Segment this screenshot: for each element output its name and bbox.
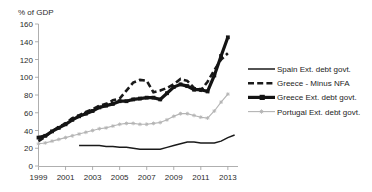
data-point-greece_ext [111,102,115,106]
data-point-greece_ext [192,88,196,92]
data-point-greece_ext [37,136,41,140]
data-point-greece_ext [118,99,122,103]
x-tick-label: 1999 [30,173,48,182]
y-tick-label: 0 [29,162,34,171]
data-point-portugal [219,100,223,104]
data-point-portugal [70,134,74,138]
data-point-greece_ext [179,82,183,86]
legend-label-spain: Spain Ext. debt govt. [277,65,351,74]
data-point-greece_ext [91,109,95,113]
data-point-greece_ext [226,35,230,39]
data-point-greece_ext [165,91,169,95]
chart-legend: Spain Ext. debt govt.Greece - Minus NFAG… [248,65,360,117]
series-line-spain [79,135,235,149]
legend-marker-greece-ext [260,95,265,100]
data-point-greece_ext [172,85,176,89]
data-point-greece_ext [212,74,216,78]
data-point-greece_ext [57,126,61,130]
legend-label-greece_nfa: Greece - Minus NFA [277,79,350,88]
data-point-greece_ext [131,98,135,102]
x-axis-tick-group: 19992001200320052007200920112013 [30,167,238,183]
y-tick-label: 100 [20,73,34,82]
y-tick-label: 40 [24,127,33,136]
data-point-portugal [158,121,162,125]
data-point-portugal [84,130,88,134]
data-point-greece_ext [199,88,203,92]
data-point-greece_ext [158,98,162,102]
legend-label-greece_ext: Greece Ext. debt govt. [277,93,357,102]
data-point-greece_ext [104,104,108,108]
data-point-greece_ext [219,54,223,58]
data-point-portugal [152,122,156,126]
data-point-greece_ext [43,134,47,138]
x-tick-label: 2003 [84,173,102,182]
data-point-portugal [172,114,176,118]
y-axis-tick-group: 020406080100120140160 [20,20,39,171]
data-point-portugal [212,109,216,113]
data-point-portugal [145,122,149,126]
data-point-greece_ext [50,129,54,133]
line-chart: % of GDP 020406080100120140160 199920012… [0,0,372,192]
data-point-portugal [138,122,142,126]
data-point-portugal [77,132,81,136]
data-point-greece_ext [84,112,88,116]
data-point-portugal [131,122,135,126]
series-group [37,35,235,149]
data-point-portugal [91,129,95,133]
legend-label-portugal: Portugal Ext. debt govt. [277,108,360,117]
data-point-portugal [111,124,115,128]
data-point-portugal [104,126,108,130]
data-point-greece_ext [138,97,142,101]
data-point-greece_ext [152,96,156,100]
series-line-greece_nfa [39,53,228,141]
data-point-greece_ext [64,122,68,126]
data-point-greece_ext [185,84,189,88]
data-point-portugal [226,92,230,96]
y-tick-label: 20 [24,144,33,153]
y-tick-label: 80 [24,91,33,100]
y-tick-label: 160 [20,20,34,29]
x-tick-label: 2011 [192,173,210,182]
data-point-greece_ext [97,106,101,110]
data-point-portugal [118,122,122,126]
x-tick-label: 2001 [57,173,75,182]
data-point-portugal [192,114,196,118]
data-point-portugal [37,142,41,146]
y-tick-label: 140 [20,38,34,47]
data-point-portugal [125,122,129,126]
data-point-portugal [43,141,47,145]
y-axis-title: % of GDP [18,8,54,17]
data-point-greece_ext [125,99,129,103]
x-tick-label: 2009 [165,173,183,182]
data-point-portugal [199,115,203,119]
y-tick-label: 60 [24,109,33,118]
data-point-greece_ext [77,114,81,118]
x-tick-label: 2007 [138,173,156,182]
data-point-greece_ext [206,90,210,94]
data-point-portugal [179,112,183,116]
chart-container: % of GDP 020406080100120140160 199920012… [0,0,372,192]
data-point-greece_ext [70,118,74,122]
legend-marker-portugal [259,109,263,113]
data-point-portugal [50,139,54,143]
data-point-portugal [57,137,61,141]
x-tick-label: 2005 [111,173,129,182]
data-point-portugal [165,118,169,122]
data-point-greece_ext [145,96,149,100]
x-tick-label: 2013 [219,173,237,182]
data-point-portugal [64,136,68,140]
data-point-portugal [206,116,210,120]
y-tick-label: 120 [20,56,34,65]
data-point-portugal [185,112,189,116]
data-point-portugal [97,127,101,131]
